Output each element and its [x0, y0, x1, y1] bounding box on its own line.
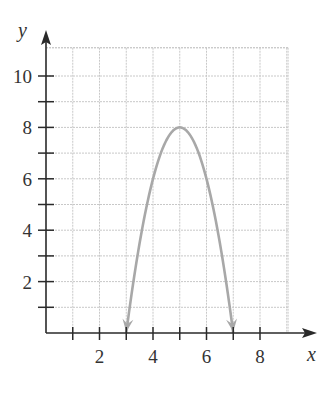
- y-tick-label: 6: [23, 169, 33, 190]
- axis-ticks: [38, 76, 260, 340]
- x-tick-label: 8: [255, 346, 265, 367]
- grid-lines: [46, 48, 288, 333]
- x-tick-label: 6: [202, 346, 212, 367]
- y-tick-label: 8: [23, 117, 33, 138]
- y-tick-label: 2: [23, 272, 33, 293]
- x-axis-label: x: [306, 343, 316, 365]
- y-tick-label: 10: [13, 66, 32, 87]
- parabola-chart: 2468246810 x y: [0, 0, 334, 397]
- x-tick-label: 2: [95, 346, 105, 367]
- tick-labels: 2468246810: [13, 66, 265, 367]
- y-axis-label: y: [16, 19, 27, 42]
- y-tick-label: 4: [23, 220, 33, 241]
- x-tick-label: 4: [148, 346, 158, 367]
